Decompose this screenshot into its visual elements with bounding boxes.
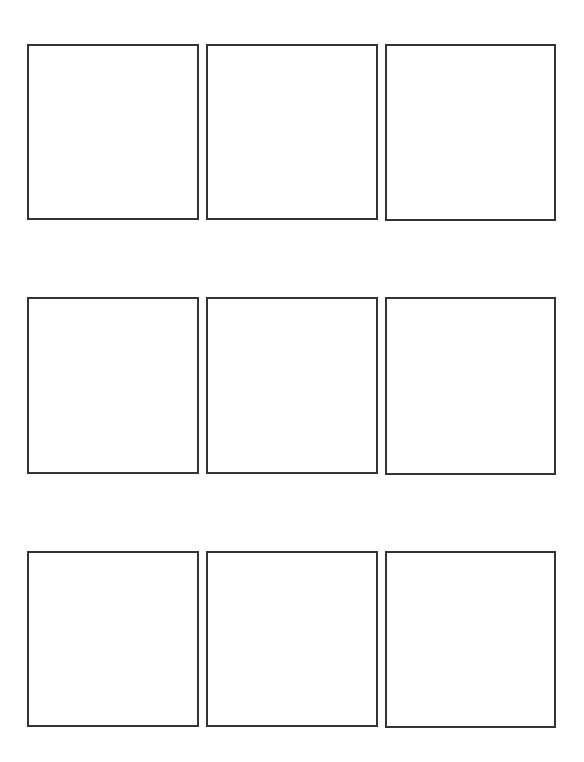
empty-panel-r1-c1 [27, 44, 199, 220]
empty-panel-r1-c2 [206, 44, 378, 220]
panel-grid [0, 0, 584, 762]
empty-panel-r3-c3 [385, 551, 556, 728]
empty-panel-r3-c1 [27, 551, 199, 727]
empty-panel-r3-c2 [206, 551, 378, 727]
empty-panel-r2-c2 [206, 297, 378, 474]
empty-panel-r1-c3 [385, 44, 556, 221]
empty-panel-r2-c3 [385, 297, 556, 475]
empty-panel-r2-c1 [27, 297, 199, 474]
